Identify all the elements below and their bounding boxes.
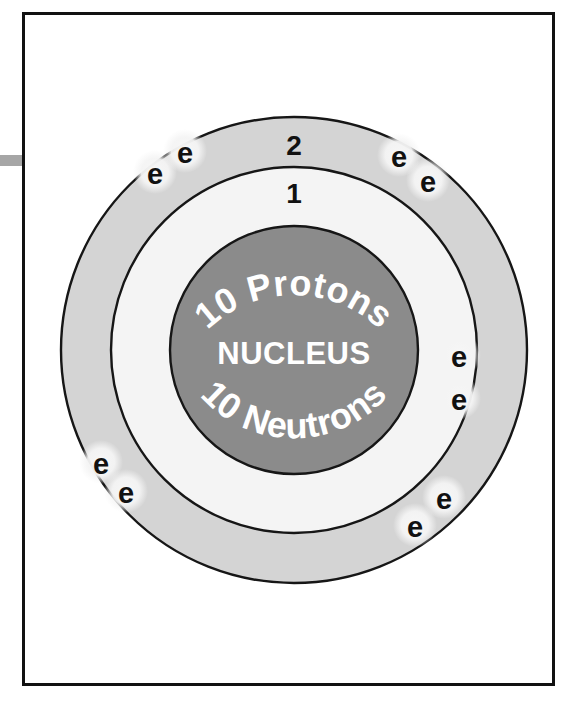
- diagram-frame: [22, 12, 555, 686]
- left-edge-tab: [0, 155, 23, 166]
- diagram-canvas: 2 1 10 Protons NUCLEUS 10 Neutrons e e e: [0, 0, 584, 716]
